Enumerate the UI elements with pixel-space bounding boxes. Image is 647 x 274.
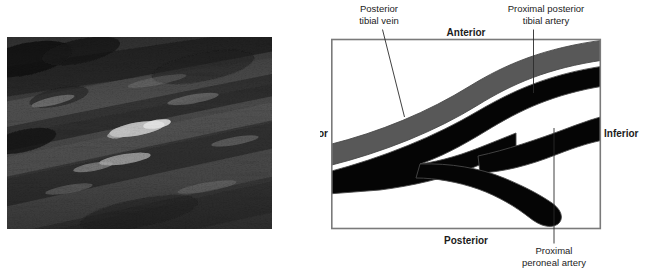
- ultrasound-canvas: [7, 37, 272, 229]
- vessel-group: [328, 40, 604, 226]
- vessel-schematic-diagram: Posterior tibial vein Proximal posterior…: [320, 0, 647, 274]
- label-posterior-tibial-vein-line2: tibial vein: [359, 15, 399, 26]
- orientation-label-superior: Superior: [320, 128, 328, 139]
- label-proximal-posterior-tibial-artery-line2: tibial artery: [523, 15, 570, 26]
- ultrasound-image: [7, 37, 272, 229]
- orientation-label-posterior: Posterior: [444, 235, 488, 246]
- orientation-label-inferior: Inferior: [604, 128, 639, 139]
- label-proximal-peroneal-artery-line1: Proximal: [536, 245, 573, 256]
- figure-root: Posterior tibial vein Proximal posterior…: [0, 0, 647, 274]
- label-proximal-posterior-tibial-artery-line1: Proximal posterior: [508, 3, 585, 14]
- proximal-peroneal-artery-shape: [416, 164, 561, 227]
- label-proximal-peroneal-artery-line2: peroneal artery: [522, 257, 586, 268]
- leader-line-posterior-tibial-vein: [383, 30, 405, 118]
- schematic-canvas: Posterior tibial vein Proximal posterior…: [320, 0, 647, 274]
- label-posterior-tibial-vein-line1: Posterior: [360, 3, 398, 14]
- orientation-label-anterior: Anterior: [447, 27, 486, 38]
